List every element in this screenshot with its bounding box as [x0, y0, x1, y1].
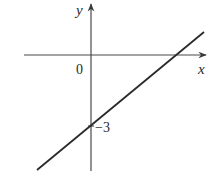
y-intercept-label: −3: [95, 120, 110, 135]
y-axis-label: y: [74, 2, 83, 18]
x-axis-label: x: [197, 61, 205, 77]
origin-label: 0: [76, 62, 83, 77]
graph-line: [37, 32, 204, 170]
line-graph: y x 0 −3: [0, 0, 209, 186]
